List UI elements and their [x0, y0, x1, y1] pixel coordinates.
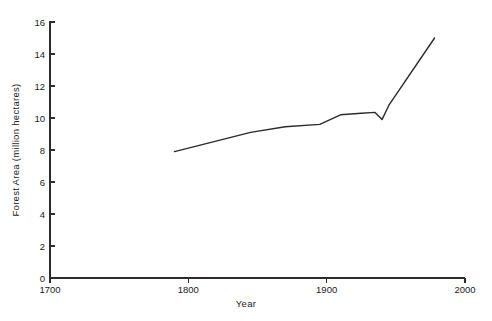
y-axis-ticks: [50, 22, 55, 278]
data-series-forest-area: [175, 38, 435, 152]
forest-area-line-chart: Forest Area (million hectares) Year 0246…: [0, 0, 492, 321]
x-axis-ticks: [50, 278, 465, 283]
axis-lines: [50, 21, 465, 278]
plot-area: [0, 0, 492, 321]
